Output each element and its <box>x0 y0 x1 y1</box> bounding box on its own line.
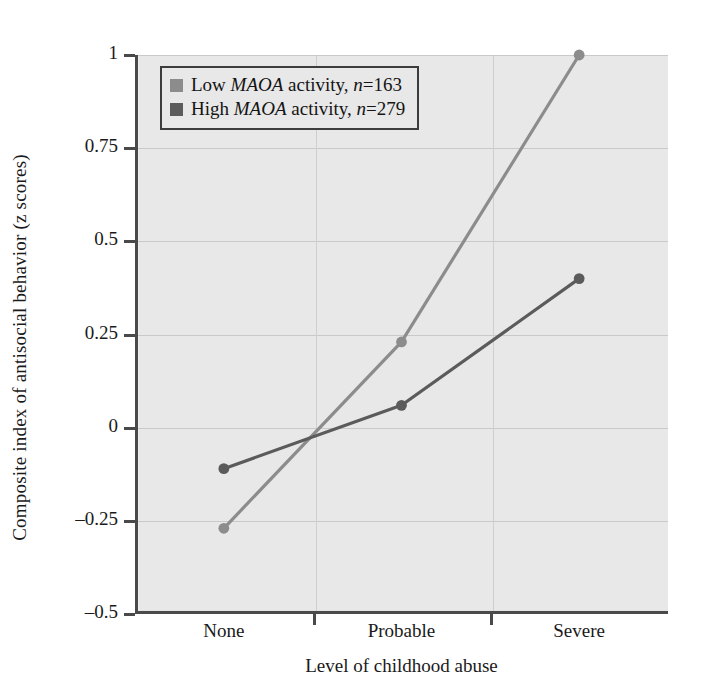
y-tick-label: 0.25 <box>46 322 118 344</box>
x-axis-title: Level of childhood abuse <box>135 655 668 677</box>
plot-area <box>135 55 668 614</box>
gridline-horizontal <box>138 55 668 56</box>
y-tick-mark <box>124 240 135 243</box>
y-tick-label: 1 <box>46 42 118 64</box>
x-tick-mark <box>313 614 316 625</box>
y-axis-title: Composite index of antisocial behavior (… <box>0 0 40 695</box>
plot-texture <box>138 55 668 611</box>
x-axis-title-text: Level of childhood abuse <box>305 655 498 676</box>
legend-item-high: High MAOA activity, n=279 <box>170 97 405 121</box>
y-tick-label: –0.5 <box>46 601 118 623</box>
y-tick-mark <box>124 613 135 616</box>
gridline-vertical <box>316 55 317 611</box>
gridline-horizontal <box>138 335 668 336</box>
y-tick-label: –0.25 <box>46 508 118 530</box>
x-tick-label: Probable <box>332 620 472 642</box>
y-tick-mark <box>124 427 135 430</box>
gridline-horizontal <box>138 241 668 242</box>
legend: Low MAOA activity, n=163 High MAOA activ… <box>160 66 419 130</box>
gridline-horizontal <box>138 521 668 522</box>
y-tick-mark <box>124 54 135 57</box>
y-tick-label: 0.5 <box>46 228 118 250</box>
legend-swatch-low-icon <box>170 79 183 92</box>
y-tick-mark <box>124 334 135 337</box>
legend-label-low: Low MAOA activity, n=163 <box>191 73 402 97</box>
legend-label-high: High MAOA activity, n=279 <box>191 97 405 121</box>
y-tick-mark <box>124 147 135 150</box>
legend-item-low: Low MAOA activity, n=163 <box>170 73 405 97</box>
x-tick-label: Severe <box>509 620 649 642</box>
y-tick-label: 0 <box>46 415 118 437</box>
chart-figure: Composite index of antisocial behavior (… <box>0 0 701 695</box>
gridline-vertical <box>493 55 494 611</box>
gridline-horizontal <box>138 428 668 429</box>
x-tick-mark <box>490 614 493 625</box>
y-tick-mark <box>124 520 135 523</box>
y-tick-label: 0.75 <box>46 135 118 157</box>
y-axis-title-text: Composite index of antisocial behavior (… <box>9 154 31 541</box>
x-tick-label: None <box>154 620 294 642</box>
legend-swatch-high-icon <box>170 103 183 116</box>
gridline-horizontal <box>138 148 668 149</box>
